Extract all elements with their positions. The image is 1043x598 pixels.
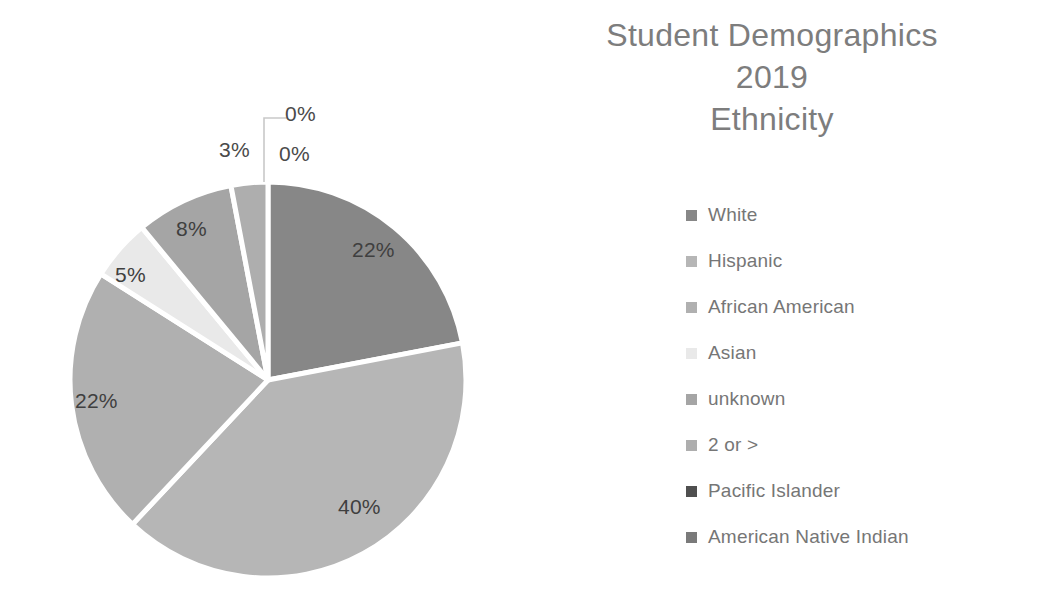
pie-graphic [0, 0, 560, 598]
legend-swatch-icon [686, 486, 697, 497]
legend-swatch-icon [686, 440, 697, 451]
legend-item[interactable]: American Native Indian [686, 514, 1036, 560]
legend-swatch-icon [686, 302, 697, 313]
slice-label-american-native-indian: 0% [279, 142, 310, 166]
slice-label-asian: 5% [115, 263, 146, 287]
legend-item[interactable]: Hispanic [686, 238, 1036, 284]
slice-label-pacific-islander: 0% [285, 102, 316, 126]
chart-title-line-2: 2019 [512, 56, 1032, 98]
legend-item-label: unknown [708, 388, 785, 410]
pie-plot-area: 22% 40% 22% 5% 8% 3% 0% 0% [0, 0, 560, 598]
legend-item-label: Pacific Islander [708, 480, 840, 502]
legend-item[interactable]: 2 or > [686, 422, 1036, 468]
slice-label-white: 22% [352, 238, 395, 262]
legend-item-label: White [708, 204, 758, 226]
legend-swatch-icon [686, 394, 697, 405]
legend-item-label: Asian [708, 342, 757, 364]
legend-swatch-icon [686, 210, 697, 221]
legend-item[interactable]: Asian [686, 330, 1036, 376]
legend-item-label: 2 or > [708, 434, 758, 456]
chart-title-line-1: Student Demographics [512, 14, 1032, 56]
slice-label-2-or-more: 3% [219, 138, 250, 162]
legend-item[interactable]: Pacific Islander [686, 468, 1036, 514]
slice-label-unknown: 8% [176, 217, 207, 241]
legend-swatch-icon [686, 532, 697, 543]
legend-item[interactable]: African American [686, 284, 1036, 330]
legend-swatch-icon [686, 348, 697, 359]
chart-title: Student Demographics 2019 Ethnicity [512, 14, 1032, 140]
chart-title-line-3: Ethnicity [512, 98, 1032, 140]
legend-item-label: African American [708, 296, 855, 318]
chart-legend: WhiteHispanicAfrican AmericanAsianunknow… [686, 192, 1036, 560]
legend-item-label: American Native Indian [708, 526, 909, 548]
slice-label-african-american: 22% [75, 389, 118, 413]
slice-label-hispanic: 40% [338, 495, 381, 519]
legend-item[interactable]: unknown [686, 376, 1036, 422]
legend-item-label: Hispanic [708, 250, 782, 272]
pie-slices-group [70, 182, 466, 578]
pie-chart-figure: 22% 40% 22% 5% 8% 3% 0% 0% Student Demog… [0, 0, 1043, 598]
legend-swatch-icon [686, 256, 697, 267]
legend-item[interactable]: White [686, 192, 1036, 238]
